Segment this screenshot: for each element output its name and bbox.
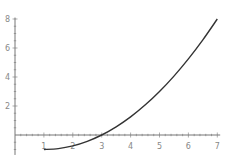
x-tick-label: 7 bbox=[215, 142, 220, 151]
y-axis-ticks: 2468 bbox=[5, 15, 18, 150]
data-curve bbox=[44, 19, 217, 150]
axes bbox=[15, 18, 220, 155]
x-tick-label: 4 bbox=[128, 142, 133, 151]
line-chart: 2468 1234567 bbox=[0, 0, 230, 159]
y-tick-label: 4 bbox=[5, 73, 10, 82]
y-tick-label: 2 bbox=[5, 102, 10, 111]
y-tick-label: 8 bbox=[5, 15, 10, 24]
x-tick-label: 5 bbox=[157, 142, 162, 151]
x-tick-label: 6 bbox=[186, 142, 191, 151]
y-tick-label: 6 bbox=[5, 44, 10, 53]
x-tick-label: 3 bbox=[99, 142, 104, 151]
